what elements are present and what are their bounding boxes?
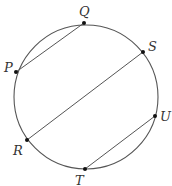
diagram-canvas: P Q S R T U bbox=[0, 0, 172, 186]
label-s: S bbox=[148, 39, 157, 54]
label-p: P bbox=[3, 60, 13, 75]
chord-pq bbox=[16, 23, 84, 72]
label-q: Q bbox=[79, 4, 90, 19]
chord-rs bbox=[27, 52, 143, 140]
circle bbox=[14, 25, 158, 169]
point-u bbox=[153, 114, 157, 118]
label-t: T bbox=[75, 173, 85, 186]
point-p bbox=[14, 70, 18, 74]
point-r bbox=[25, 138, 29, 142]
label-r: R bbox=[12, 143, 23, 158]
circle-diagram: P Q S R T U bbox=[0, 0, 172, 186]
point-s bbox=[141, 50, 145, 54]
label-u: U bbox=[160, 109, 172, 124]
point-t bbox=[83, 167, 87, 171]
point-q bbox=[82, 21, 86, 25]
